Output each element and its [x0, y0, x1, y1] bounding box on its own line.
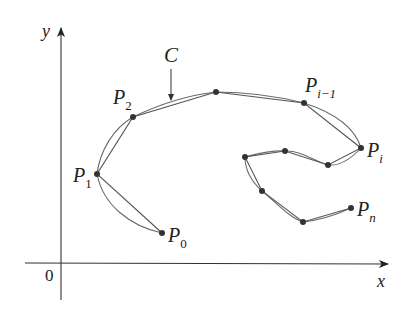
point-p-i-minus-1 [301, 100, 307, 106]
x-axis-label: x [376, 271, 385, 291]
point-p-i [358, 145, 364, 151]
point-p2 [130, 114, 136, 120]
point [325, 162, 331, 168]
y-axis-label: y [40, 21, 50, 41]
label-p-i: Pi [366, 139, 383, 166]
arc-length-diagram: y x 0 C P2 P1 P0 Pi−1 [0, 0, 411, 315]
label-p1: P1 [72, 164, 92, 191]
label-p-i-minus-1: Pi−1 [304, 74, 336, 101]
label-p2: P2 [112, 86, 132, 113]
label-p0: P0 [167, 224, 187, 251]
point [259, 188, 265, 194]
point [300, 219, 306, 225]
point [213, 89, 219, 95]
polygonal-path [97, 92, 361, 233]
point [242, 154, 248, 160]
curve-label-c: C [164, 43, 179, 67]
point [282, 148, 288, 154]
point-p-n [348, 205, 354, 211]
label-p-n: Pn [356, 198, 376, 225]
x-axis [25, 263, 388, 264]
point-p0 [159, 230, 165, 236]
origin-label: 0 [45, 266, 54, 285]
point-labels: P2 P1 P0 Pi−1 Pi Pn [72, 74, 383, 251]
point-p1 [94, 171, 100, 177]
axes: y x 0 [25, 21, 388, 300]
